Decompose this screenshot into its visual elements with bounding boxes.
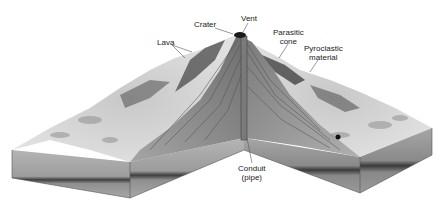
volcano-diagram: Crater Vent Lava Parasitic cone Pyroclas… — [0, 0, 448, 209]
pyroclastic-label-line1: Pyroclastic — [304, 44, 343, 53]
crater-label: Crater — [194, 20, 216, 29]
conduit-label: Conduit (pipe) — [238, 164, 266, 182]
left-block-side-west — [12, 150, 130, 198]
lava-label: Lava — [157, 38, 174, 47]
vent-label-text: Vent — [241, 14, 257, 23]
parasitic-vent-hole — [336, 135, 341, 140]
pyroclastic-material-label: Pyroclastic material — [304, 44, 343, 62]
parasitic-cone-label-line1: Parasitic — [273, 28, 304, 37]
parasitic-cone-label: Parasitic cone — [273, 28, 304, 46]
vent-opening — [234, 32, 246, 38]
conduit-label-line1: Conduit — [238, 164, 266, 173]
conduit-pipe — [241, 36, 247, 140]
pyroclastic-label-line2: material — [304, 53, 343, 62]
crater-label-text: Crater — [194, 20, 216, 29]
parasitic-cone-label-line2: cone — [273, 37, 304, 46]
conduit-label-line2: (pipe) — [238, 173, 266, 182]
lava-label-text: Lava — [157, 38, 174, 47]
vent-label: Vent — [241, 14, 257, 23]
volcano-illustration — [0, 0, 448, 209]
